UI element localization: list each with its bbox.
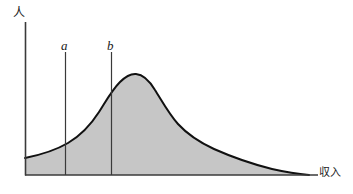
- distribution-area-fill: [25, 74, 309, 175]
- income-distribution-figure: 人 収入 a b: [0, 0, 353, 194]
- marker-label-a: a: [61, 39, 68, 52]
- distribution-chart: [0, 0, 353, 194]
- x-axis-label: 収入: [319, 167, 341, 178]
- marker-label-b: b: [107, 39, 114, 52]
- y-axis-label: 人: [13, 7, 25, 19]
